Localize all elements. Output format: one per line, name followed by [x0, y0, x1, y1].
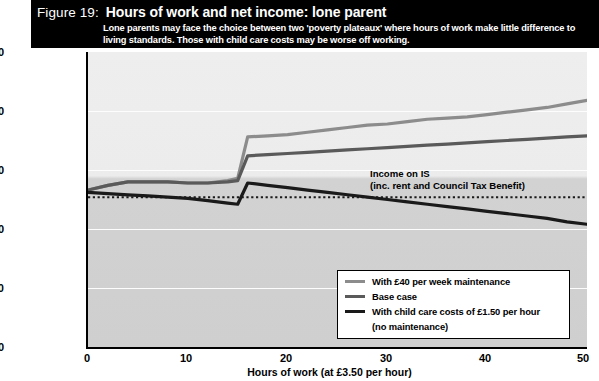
legend-label-base-case: Base case: [372, 291, 417, 302]
legend-swatch-icon-base-case: [345, 295, 365, 298]
xtick-0: 0: [84, 352, 90, 364]
ytick-100: 100: [0, 223, 4, 235]
title-row: Figure 19: Hours of work and net income:…: [37, 4, 593, 20]
x-axis-label: Hours of work (at £3.50 per hour): [0, 366, 599, 378]
legend-swatch-icon-blank: [345, 325, 365, 328]
legend-label-childcare: With child care costs of £1.50 per hour: [372, 306, 540, 317]
xtick-50: 50: [577, 352, 589, 364]
chart-legend: With £40 per week maintenance Base case …: [337, 270, 570, 339]
ytick-0: 0: [0, 341, 4, 353]
legend-swatch-icon-maintenance: [345, 280, 365, 283]
xtick-20: 20: [280, 352, 292, 364]
legend-item-maintenance: With £40 per week maintenance: [345, 276, 562, 287]
ytick-50: 50: [0, 282, 4, 294]
figure-container: Figure 19: Hours of work and net income:…: [0, 0, 599, 381]
legend-swatch-icon-childcare: [345, 310, 365, 313]
xtick-30: 30: [380, 352, 392, 364]
figure-number: Figure 19:: [37, 5, 99, 20]
income-on-is-annotation: Income on IS (inc. rent and Council Tax …: [370, 168, 525, 192]
annotation-line-2: (inc. rent and Council Tax Benefit): [370, 180, 525, 192]
ytick-200: 200: [0, 105, 4, 117]
ytick-150: 150: [0, 164, 4, 176]
ytick-250: 250: [0, 46, 4, 58]
legend-item-base-case: Base case: [345, 291, 562, 302]
page-title: Hours of work and net income: lone paren…: [106, 4, 387, 20]
legend-label-maintenance: With £40 per week maintenance: [372, 276, 510, 287]
xtick-40: 40: [479, 352, 491, 364]
figure-title-banner: Figure 19: Hours of work and net income:…: [31, 0, 599, 48]
legend-label-childcare-cont: (no maintenance): [372, 321, 448, 332]
legend-item-childcare-cont: (no maintenance): [345, 321, 562, 332]
legend-item-childcare: With child care costs of £1.50 per hour: [345, 306, 562, 317]
xtick-10: 10: [180, 352, 192, 364]
figure-subtitle: Lone parents may face the choice between…: [103, 22, 593, 47]
annotation-line-1: Income on IS: [370, 168, 525, 180]
